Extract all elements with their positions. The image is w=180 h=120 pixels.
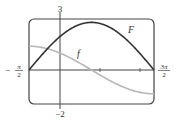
series-f-label: f bbox=[77, 48, 81, 59]
x-max-denominator: 2 bbox=[162, 71, 166, 79]
series-F-line bbox=[29, 22, 154, 70]
x-min-sign: − bbox=[5, 65, 10, 75]
chart-canvas: 3 −2 − π 2 3π 2 F f bbox=[0, 0, 180, 120]
x-min-numerator: π bbox=[17, 63, 21, 71]
y-max-label: 3 bbox=[58, 4, 63, 14]
x-max-numerator: 3π bbox=[159, 63, 168, 71]
x-min-denominator: 2 bbox=[17, 71, 21, 79]
series-F-label: F bbox=[127, 24, 135, 35]
y-min-label: −2 bbox=[55, 109, 65, 119]
